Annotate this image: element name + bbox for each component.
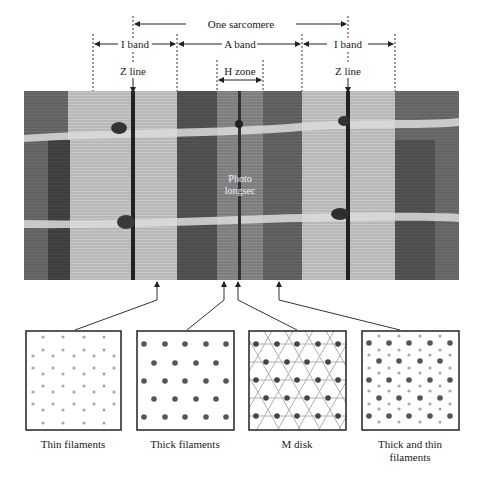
label-a-band: A band bbox=[222, 38, 257, 50]
caption-text: Thick and thin bbox=[378, 438, 442, 450]
photo-placeholder-line1: Photo bbox=[228, 173, 251, 184]
photo-placeholder-line2: longsec bbox=[225, 185, 256, 196]
label-i-band-right: I band bbox=[332, 38, 364, 50]
caption-text: M disk bbox=[282, 438, 313, 450]
panel-thick-and-thin bbox=[362, 331, 459, 430]
connector-lines bbox=[75, 282, 400, 330]
label-one-sarcomere: One sarcomere bbox=[206, 18, 276, 30]
caption-thick-and-thin: Thick and thin filaments bbox=[355, 438, 465, 464]
label-i-band-left: I band bbox=[119, 38, 151, 50]
panel-thin-filaments bbox=[26, 331, 121, 430]
panel-thick-filaments bbox=[137, 331, 234, 430]
caption-thick-filaments: Thick filaments bbox=[130, 438, 240, 451]
caption-text-line2: filaments bbox=[390, 451, 431, 463]
caption-text: Thin filaments bbox=[41, 438, 105, 450]
caption-thin-filaments: Thin filaments bbox=[18, 438, 128, 451]
label-z-line-left: Z line bbox=[118, 65, 148, 77]
label-z-line-right: Z line bbox=[333, 65, 363, 77]
label-h-zone: H zone bbox=[222, 65, 257, 77]
caption-m-disk: M disk bbox=[242, 438, 352, 451]
caption-text: Thick filaments bbox=[150, 438, 219, 450]
